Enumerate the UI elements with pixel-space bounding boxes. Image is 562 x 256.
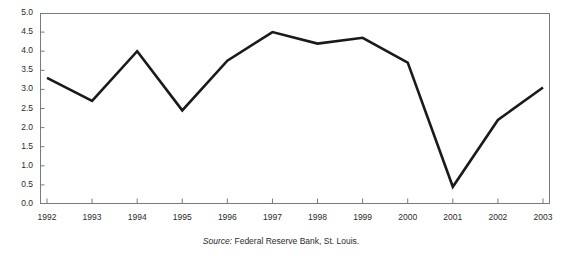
plot-border — [41, 14, 550, 204]
source-label: Source: — [203, 236, 232, 246]
plot-area — [40, 13, 550, 204]
x-tick-label: 1995 — [162, 212, 202, 222]
source-text: Federal Reserve Bank, St. Louis. — [234, 236, 359, 246]
x-tick-label: 1998 — [298, 212, 338, 222]
x-tick-label: 1994 — [117, 212, 157, 222]
x-tick-label: 2002 — [478, 212, 518, 222]
y-tick-label: 2.5 — [9, 104, 33, 113]
x-tick-label: 1997 — [252, 212, 292, 222]
x-tick-label: 2003 — [523, 212, 562, 222]
x-tick-label: 1999 — [343, 212, 383, 222]
y-tick-label: 2.0 — [9, 123, 33, 132]
x-tick-label: 1992 — [27, 212, 67, 222]
y-tick-label: 0.0 — [9, 199, 33, 208]
y-tick-label: 5.0 — [9, 8, 33, 17]
x-tick-label: 1993 — [72, 212, 112, 222]
y-tick-label: 4.5 — [9, 27, 33, 36]
line-chart-svg — [40, 13, 550, 204]
y-tick-label: 4.0 — [9, 46, 33, 55]
chart-figure: 5.04.54.03.53.02.52.01.51.00.50.0 199219… — [0, 0, 562, 256]
y-tick-label: 3.0 — [9, 84, 33, 93]
x-tick-label: 2001 — [433, 212, 473, 222]
chart-title — [0, 0, 562, 1]
x-tick-label: 1996 — [207, 212, 247, 222]
y-tick-label: 3.5 — [9, 65, 33, 74]
x-tick-label: 2000 — [388, 212, 428, 222]
y-tick-label: 0.5 — [9, 180, 33, 189]
y-tick-label: 1.0 — [9, 161, 33, 170]
y-tick-label: 1.5 — [9, 142, 33, 151]
source-note: Source: Federal Reserve Bank, St. Louis. — [0, 236, 562, 246]
